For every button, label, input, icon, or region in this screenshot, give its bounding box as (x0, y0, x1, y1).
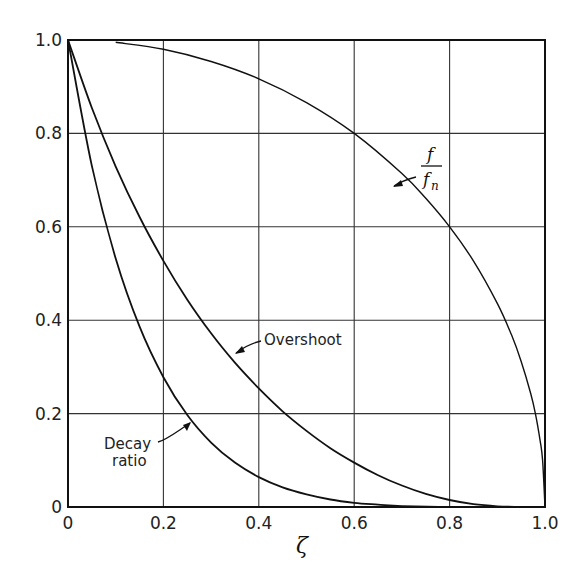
x-tick-label: 1.0 (531, 513, 558, 533)
x-tick-label: 0.8 (436, 513, 463, 533)
x-tick-labels: 00.20.40.60.81.0 (63, 513, 559, 533)
curve-f-f-n (116, 42, 545, 507)
chart: 00.20.40.60.81.0 00.20.40.60.81.0 f f n … (0, 0, 578, 583)
overshoot-label: Overshoot (264, 331, 342, 349)
y-tick-labels: 00.20.40.60.81.0 (35, 30, 62, 517)
x-axis-label: ζ (296, 533, 310, 558)
x-tick-label: 0.4 (245, 513, 272, 533)
decay-ratio-annotation: Decay ratio (104, 422, 191, 470)
ffn-numerator: f (425, 144, 436, 164)
overshoot-annotation: Overshoot (235, 331, 342, 354)
decay-label-line2: ratio (112, 452, 147, 470)
y-tick-label: 0.8 (35, 123, 62, 143)
y-tick-label: 0 (51, 497, 62, 517)
y-tick-label: 0.4 (35, 310, 62, 330)
x-tick-label: 0.2 (150, 513, 177, 533)
ffn-subscript: n (431, 179, 439, 193)
x-tick-label: 0 (63, 513, 74, 533)
y-tick-label: 0.6 (35, 217, 62, 237)
y-tick-label: 0.2 (35, 404, 62, 424)
decay-label-line1: Decay (104, 435, 151, 453)
x-tick-label: 0.6 (341, 513, 368, 533)
y-tick-label: 1.0 (35, 30, 62, 50)
ffn-annotation: f f n (393, 144, 442, 193)
